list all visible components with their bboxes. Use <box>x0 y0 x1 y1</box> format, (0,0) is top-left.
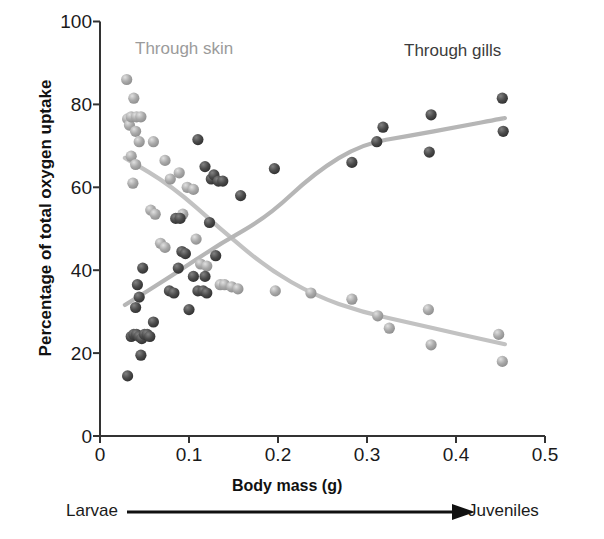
axis-arrow-label-larvae: Larvae <box>66 501 118 521</box>
data-point <box>144 331 155 342</box>
data-point <box>132 279 143 290</box>
y-tick-label-40: 40 <box>48 260 92 282</box>
data-point <box>183 304 194 315</box>
data-point <box>159 242 170 253</box>
data-point <box>188 184 199 195</box>
data-point <box>165 173 176 184</box>
data-point <box>130 302 141 313</box>
axis-arrow-label-juveniles: Juveniles <box>468 501 539 521</box>
data-point <box>127 178 138 189</box>
data-point <box>217 176 228 187</box>
data-point <box>498 126 509 137</box>
data-point <box>121 74 132 85</box>
y-tick-label-80: 80 <box>48 94 92 116</box>
data-point <box>188 271 199 282</box>
data-point <box>130 126 141 137</box>
data-point <box>130 159 141 170</box>
data-point <box>128 93 139 104</box>
data-point <box>137 263 148 274</box>
data-point <box>134 292 145 303</box>
data-point <box>424 147 435 158</box>
data-point <box>168 287 179 298</box>
data-point <box>199 271 210 282</box>
y-tick-label-100: 100 <box>48 11 92 33</box>
y-tick-label-60: 60 <box>48 177 92 199</box>
data-point <box>232 283 243 294</box>
data-point <box>210 250 221 261</box>
series-label-through-gills: Through gills <box>404 41 501 61</box>
data-point <box>377 122 388 133</box>
x-tick-label-0-3: 0.3 <box>342 444 392 466</box>
data-point <box>192 134 203 145</box>
data-point <box>175 213 186 224</box>
data-point <box>199 161 210 172</box>
data-point <box>122 370 133 381</box>
data-point <box>173 263 184 274</box>
axes-group <box>93 22 545 444</box>
data-point <box>180 248 191 259</box>
data-point <box>346 157 357 168</box>
data-point <box>426 109 437 120</box>
data-point <box>204 217 215 228</box>
x-tick-label-0: 0 <box>75 444 125 466</box>
data-point <box>201 261 212 272</box>
x-tick-label-0-4: 0.4 <box>431 444 481 466</box>
data-point <box>497 93 508 104</box>
data-point <box>346 294 357 305</box>
data-point <box>371 136 382 147</box>
data-point <box>148 316 159 327</box>
data-point <box>493 329 504 340</box>
data-point <box>135 350 146 361</box>
data-point <box>191 234 202 245</box>
x-axis-title: Body mass (g) <box>232 477 342 495</box>
data-point <box>159 155 170 166</box>
data-point <box>134 136 145 147</box>
data-point <box>201 287 212 298</box>
series-label-through-skin: Through skin <box>135 39 233 59</box>
chart-figure: Percentage of total oxygen uptake 100 80… <box>0 0 604 539</box>
x-tick-label-0-5: 0.5 <box>520 444 570 466</box>
larvae-juveniles-arrow <box>127 504 475 520</box>
data-point <box>497 356 508 367</box>
data-point <box>148 136 159 147</box>
data-point <box>270 285 281 296</box>
data-point <box>269 163 280 174</box>
data-point <box>135 111 146 122</box>
data-point <box>426 339 437 350</box>
data-point <box>235 190 246 201</box>
data-point <box>423 304 434 315</box>
x-tick-label-0-2: 0.2 <box>253 444 303 466</box>
data-point <box>384 323 395 334</box>
data-point <box>150 209 161 220</box>
x-tick-label-0-1: 0.1 <box>164 444 214 466</box>
series-points-through-gills <box>122 93 509 382</box>
data-point <box>305 287 316 298</box>
data-point <box>372 310 383 321</box>
y-tick-label-20: 20 <box>48 343 92 365</box>
